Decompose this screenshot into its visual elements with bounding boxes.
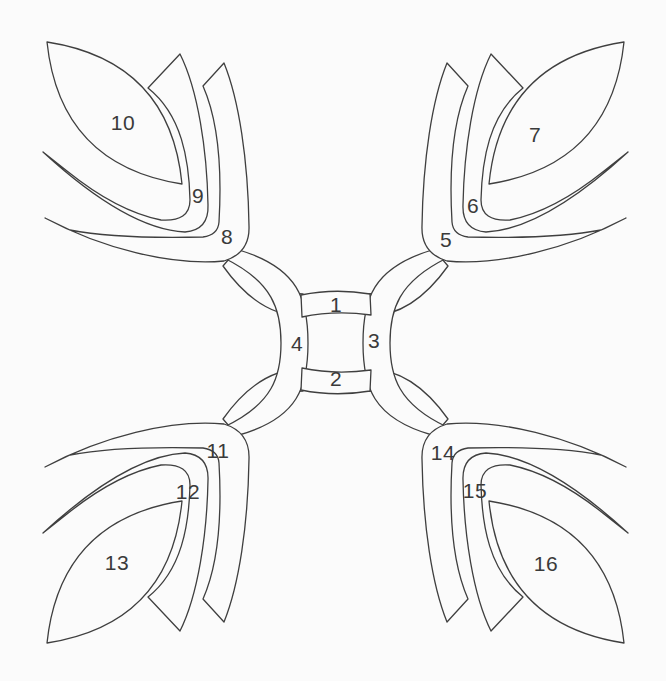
piece-label-6: 6 <box>467 194 479 217</box>
cluster-top-right <box>422 42 628 262</box>
piece-label-3: 3 <box>368 329 380 352</box>
piece-label-15: 15 <box>463 479 487 502</box>
piece-label-4: 4 <box>291 332 303 355</box>
piece-label-10: 10 <box>111 111 135 134</box>
cluster-top-left <box>43 42 249 262</box>
piece-label-7: 7 <box>529 123 541 146</box>
piece-label-13: 13 <box>105 551 129 574</box>
piece-label-16: 16 <box>534 552 558 575</box>
piece-label-9: 9 <box>192 184 204 207</box>
pattern-page: 1 2 3 4 5 6 7 8 9 10 11 12 13 14 15 16 <box>0 0 666 681</box>
piece-label-11: 11 <box>207 439 230 462</box>
piece-label-5: 5 <box>440 228 452 251</box>
piece-label-2: 2 <box>330 367 342 390</box>
leaf-shape <box>489 42 624 184</box>
piece-label-8: 8 <box>221 225 233 248</box>
applique-pattern-diagram: 1 2 3 4 5 6 7 8 9 10 11 12 13 14 15 16 <box>0 0 666 681</box>
piece-label-12: 12 <box>176 480 200 503</box>
piece-label-14: 14 <box>431 441 455 464</box>
piece-label-1: 1 <box>330 293 342 316</box>
